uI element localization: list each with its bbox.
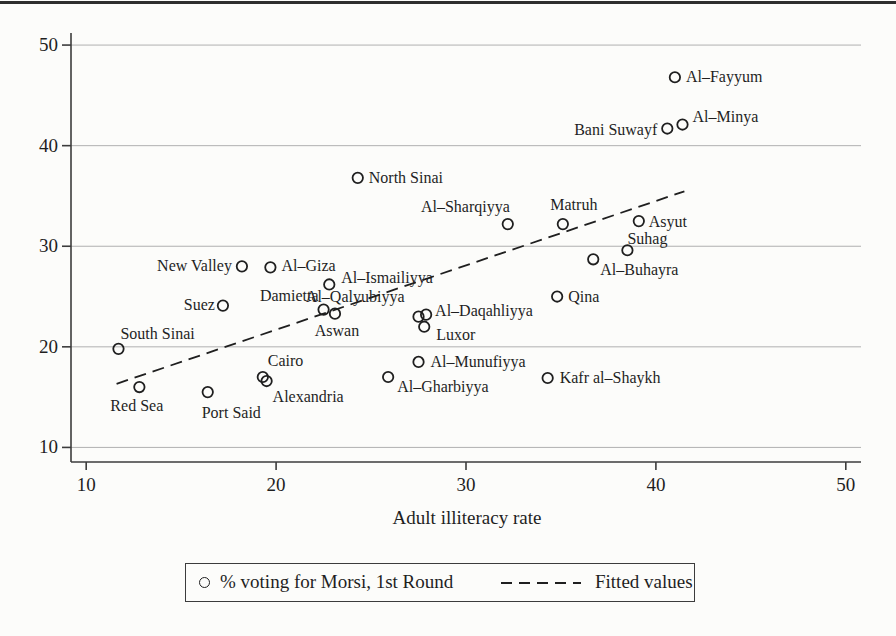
y-tick-label: 30 [39,235,58,256]
point-label: New Valley [157,257,232,275]
point-label: Aswan [315,322,359,339]
x-tick-label: 30 [457,474,476,495]
figure-page: 10203040501020304050South SinaiRed SeaPo… [0,0,896,636]
data-point [113,344,123,354]
data-point [203,387,213,397]
dashed-line-icon [501,582,581,584]
x-tick-label: 40 [646,474,665,495]
legend-series-label: % voting for Morsi, 1st Round [220,564,453,600]
point-label: Cairo [268,352,304,369]
point-label: Port Said [202,404,261,421]
point-label: Al–Munufiyya [431,353,526,371]
point-label: Al–Fayyum [686,68,763,86]
data-point [419,322,429,332]
point-label: North Sinai [369,169,444,186]
data-point [413,357,423,367]
data-point [353,173,363,183]
x-tick-label: 50 [836,474,855,495]
point-label: Qina [568,288,599,305]
point-label: Kafr al–Shaykh [560,369,661,387]
point-label: Suhag [627,230,667,248]
data-point [237,261,247,271]
x-tick-label: 10 [77,474,96,495]
hollow-circle-marker-icon [199,577,210,588]
data-point [634,216,644,226]
data-point [670,72,680,82]
point-label: Red Sea [110,397,163,414]
data-point [558,219,568,229]
point-label: Al–Giza [281,257,335,274]
data-point [503,219,513,229]
data-point [265,262,275,272]
data-point [134,382,144,392]
point-label: Al–Sharqiyya [421,198,510,216]
y-tick-label: 50 [39,34,58,55]
scatter-plot: 10203040501020304050South SinaiRed SeaPo… [0,0,896,500]
point-label: Al–Gharbiyya [397,378,489,396]
point-label: Alexandria [273,388,344,405]
x-axis-title: Adult illiteracy rate [37,507,896,529]
point-label: Suez [184,296,215,313]
data-point [552,291,562,301]
point-label: Al–Qalyubiyya [306,288,405,306]
legend-box: % voting for Morsi, 1st Round Fitted val… [185,563,695,602]
y-tick-label: 10 [39,436,58,457]
y-tick-label: 40 [39,135,58,156]
point-label: Luxor [436,326,476,343]
legend-fitted-label: Fitted values [595,564,693,600]
point-label: Bani Suwayf [574,121,658,139]
point-label: Matruh [550,196,597,213]
data-point [218,300,228,310]
data-point [662,123,672,133]
point-label: South Sinai [120,325,195,342]
point-label: Al–Buhayra [600,261,678,279]
point-label: Asyut [649,213,688,231]
data-point [588,254,598,264]
y-tick-label: 20 [39,336,58,357]
data-point [542,373,552,383]
point-label: Al–Ismailiyya [341,269,433,287]
data-point [383,372,393,382]
point-label: Al–Minya [692,108,758,126]
x-tick-label: 20 [267,474,286,495]
data-point [677,119,687,129]
point-label: Al–Daqahliyya [435,302,533,320]
